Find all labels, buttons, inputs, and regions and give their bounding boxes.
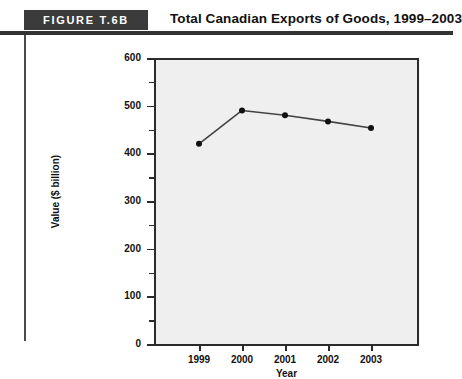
header-divider bbox=[0, 31, 453, 35]
figure-number-badge: FIGURE T.6B bbox=[24, 10, 148, 30]
x-axis-title: Year bbox=[155, 368, 418, 379]
data-point-2003 bbox=[368, 125, 374, 131]
chart-area: 600 500 400 300 200 100 0 1999 2000 2001… bbox=[0, 36, 453, 359]
figure-header: FIGURE T.6B Total Canadian Exports of Go… bbox=[0, 0, 453, 36]
data-point-1999 bbox=[196, 141, 202, 147]
data-series-plot bbox=[0, 36, 453, 359]
figure-title: Total Canadian Exports of Goods, 1999–20… bbox=[170, 11, 462, 26]
figure-number-label: FIGURE T.6B bbox=[43, 14, 129, 26]
data-point-2000 bbox=[239, 107, 245, 113]
series-markers bbox=[196, 107, 374, 146]
data-point-2001 bbox=[282, 112, 288, 118]
data-point-2002 bbox=[325, 118, 331, 124]
